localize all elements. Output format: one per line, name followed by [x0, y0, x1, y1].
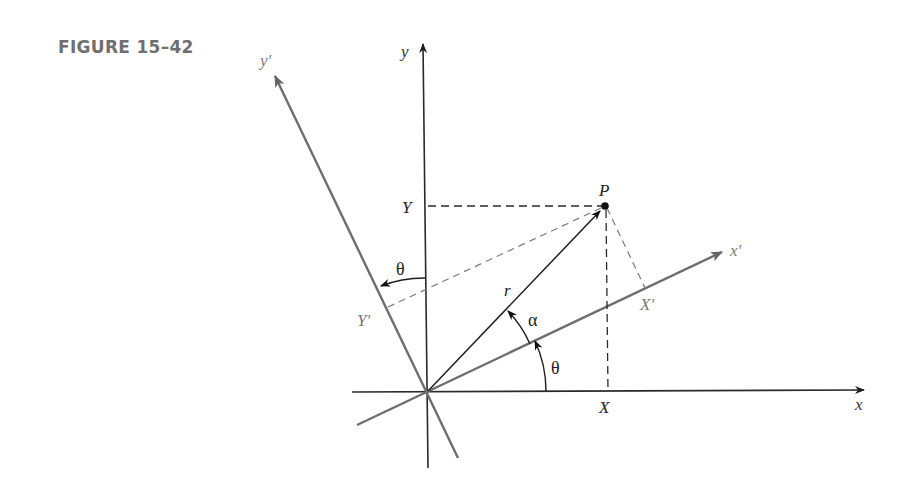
radius-vector-r [428, 211, 600, 391]
dashed-line-P-to-X [606, 210, 608, 392]
label-Y-prime: Y′ [357, 311, 370, 330]
label-point-P: P [598, 181, 609, 200]
label-x-prime-axis: x′ [729, 241, 742, 260]
label-Y: Y [402, 198, 413, 217]
label-x-axis: x [854, 395, 863, 414]
theta-arc-bottom [535, 341, 546, 391]
label-X-prime: X′ [639, 295, 654, 314]
y-axis [423, 44, 428, 468]
alpha-arc [508, 311, 530, 344]
label-X: X [598, 398, 610, 417]
label-y-prime-axis: y′ [258, 51, 272, 70]
y-prime-axis [275, 76, 458, 458]
dashed-line-P-to-Xprime [607, 208, 645, 288]
point-P [601, 202, 609, 210]
label-theta-bottom: θ [551, 358, 560, 378]
label-y-axis: y [399, 42, 409, 61]
label-radius-r: r [504, 281, 511, 300]
dashed-line-P-to-Yprime [388, 208, 601, 307]
coordinate-rotation-diagram: y y′ x x′ P Y X X′ Y′ r α θ θ [0, 0, 910, 492]
label-theta-top: θ [396, 259, 405, 279]
label-alpha: α [528, 310, 538, 330]
theta-arc-top [381, 278, 425, 286]
